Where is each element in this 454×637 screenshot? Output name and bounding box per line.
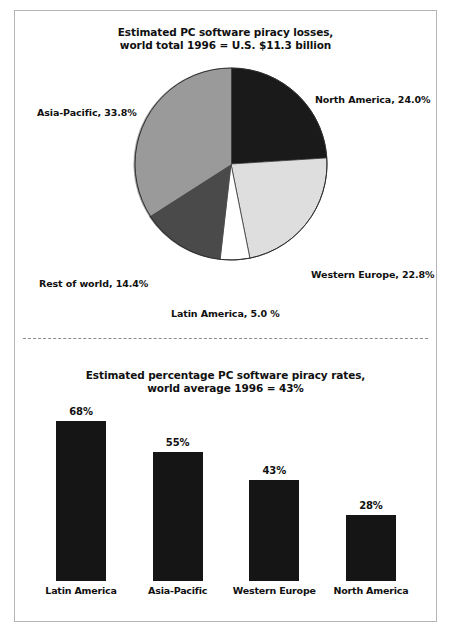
bar-column-asia-pacific[interactable]: 55% xyxy=(134,403,222,581)
bar-rect-western-europe[interactable] xyxy=(249,480,299,581)
pie-chart-title: Estimated PC software piracy losses, wor… xyxy=(15,26,436,52)
bar-label-asia-pacific: Asia-Pacific xyxy=(134,585,222,596)
pie-title-line-2: world total 1996 = U.S. $11.3 billion xyxy=(15,39,436,52)
bar-rect-latin-america[interactable] xyxy=(56,421,106,581)
figure-frame: Estimated PC software piracy losses, wor… xyxy=(14,10,437,622)
pie-chart-panel: Estimated PC software piracy losses, wor… xyxy=(15,11,436,338)
pie-label-western-europe: Western Europe, 22.8% xyxy=(311,269,434,280)
pie-title-line-1: Estimated PC software piracy losses, xyxy=(15,26,436,39)
bar-title-line-2: world average 1996 = 43% xyxy=(15,382,436,395)
bar-value-western-europe: 43% xyxy=(262,465,286,476)
bar-plot-area: 68% 55% 43% 28% xyxy=(37,403,415,581)
bar-rect-north-america[interactable] xyxy=(346,515,396,581)
pie-label-asia-pacific: Asia-Pacific, 33.8% xyxy=(37,107,137,118)
bar-column-north-america[interactable]: 28% xyxy=(327,403,415,581)
bar-category-labels: Latin America Asia-Pacific Western Europ… xyxy=(37,585,415,596)
panel-divider xyxy=(23,338,428,339)
bar-title-line-1: Estimated percentage PC software piracy … xyxy=(15,369,436,382)
pie-svg xyxy=(131,64,331,264)
bar-value-latin-america: 68% xyxy=(69,406,93,417)
pie-label-latin-america: Latin America, 5.0 % xyxy=(171,308,280,319)
pie-label-rest-of-world: Rest of world, 14.4% xyxy=(39,278,148,289)
bar-chart-title: Estimated percentage PC software piracy … xyxy=(15,369,436,395)
bar-chart-panel: Estimated percentage PC software piracy … xyxy=(15,341,436,622)
pie-label-north-america: North America, 24.0% xyxy=(315,94,430,105)
bar-rect-asia-pacific[interactable] xyxy=(153,452,203,581)
bar-value-north-america: 28% xyxy=(359,500,383,511)
bar-value-asia-pacific: 55% xyxy=(166,437,190,448)
bar-column-western-europe[interactable]: 43% xyxy=(230,403,318,581)
bar-label-latin-america: Latin America xyxy=(37,585,125,596)
bar-label-north-america: North America xyxy=(327,585,415,596)
pie-graphic xyxy=(131,64,331,264)
bar-label-western-europe: Western Europe xyxy=(230,585,318,596)
pie-slice-north-america[interactable] xyxy=(231,68,327,164)
bar-column-latin-america[interactable]: 68% xyxy=(37,403,125,581)
